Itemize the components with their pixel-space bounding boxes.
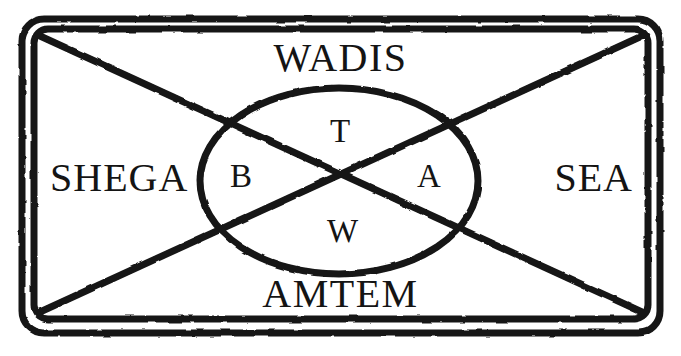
- outer-label-left: SHEGA: [50, 158, 188, 198]
- diagram-canvas: WADIS SHEGA SEA AMTEM T B A W: [0, 0, 681, 356]
- inner-label-left: B: [230, 160, 253, 193]
- outer-label-right: SEA: [554, 158, 633, 198]
- outer-label-top: WADIS: [0, 38, 681, 78]
- inner-label-right: A: [417, 160, 441, 193]
- inner-label-top: T: [330, 115, 351, 148]
- inner-label-bottom: W: [327, 215, 359, 248]
- outer-label-bottom: AMTEM: [0, 274, 681, 314]
